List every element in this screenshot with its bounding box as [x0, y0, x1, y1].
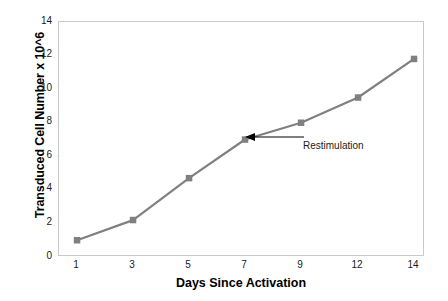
data-point-marker [355, 94, 362, 101]
x-tick-label-9: 9 [280, 260, 320, 270]
series-markers [74, 56, 418, 244]
restimulation-arrow-icon [245, 133, 304, 141]
chart-figure: Transduced Cell Number x 10^6 14 12 10 8… [0, 0, 448, 301]
y-tick-label-14: 14 [26, 16, 52, 26]
data-series-svg [59, 22, 425, 257]
x-tick-label-7: 7 [224, 260, 264, 270]
y-tick-label-6: 6 [26, 150, 52, 160]
data-point-marker [411, 56, 418, 63]
data-point-marker [74, 237, 81, 244]
data-point-marker [130, 217, 137, 224]
data-point-marker [298, 120, 305, 127]
y-tick-label-4: 4 [26, 183, 52, 193]
x-tick-label-14: 14 [393, 260, 433, 270]
y-tick-label-2: 2 [26, 217, 52, 227]
y-tick-label-10: 10 [26, 83, 52, 93]
x-tick-label-3: 3 [112, 260, 152, 270]
restimulation-annotation-label: Restimulation [303, 140, 364, 151]
y-tick-label-8: 8 [26, 116, 52, 126]
x-tick-label-12: 12 [337, 260, 377, 270]
x-tick-label-5: 5 [168, 260, 208, 270]
plot-area [58, 21, 424, 256]
y-tick-label-0: 0 [26, 251, 52, 261]
y-tick-label-12: 12 [26, 49, 52, 59]
data-point-marker [186, 175, 193, 182]
x-tick-label-1: 1 [56, 260, 96, 270]
x-axis-title: Days Since Activation [58, 276, 424, 290]
